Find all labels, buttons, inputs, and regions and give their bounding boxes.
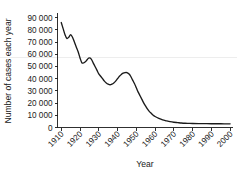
y-tick-label: 0 [48, 124, 53, 133]
x-axis-title: Year [136, 159, 154, 169]
y-tick-label: 60 000 [27, 50, 52, 59]
y-tick-label: 90 000 [27, 14, 52, 23]
y-tick-label: 40 000 [27, 75, 52, 84]
y-tick-label: 50 000 [27, 62, 52, 71]
chart-figure: 010 00020 00030 00040 00050 00060 00070 … [0, 0, 237, 171]
y-axis-title: Number of cases each year [3, 18, 13, 123]
y-tick-label: 30 000 [27, 87, 52, 96]
y-tick-label: 70 000 [27, 38, 52, 47]
y-tick-label: 20 000 [27, 99, 52, 108]
line-chart: 010 00020 00030 00040 00050 00060 00070 … [0, 0, 237, 171]
y-tick-label: 10 000 [27, 111, 52, 120]
y-tick-label: 80 000 [27, 26, 52, 35]
